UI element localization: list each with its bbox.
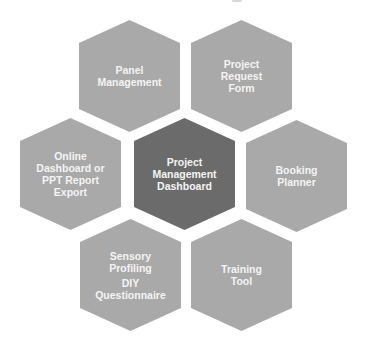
label-line: Planner [277,176,316,188]
label-line: Project [167,156,203,168]
hex-label: Training Tool [217,263,266,287]
hexagon-diagram: Panel Management Project Request Form On… [0,0,365,348]
hex-label: Sensory Profiling DIY Questionnaire [91,250,170,301]
label-line: Panel [115,64,143,76]
hex-label: Project Management Dashboard [148,156,220,192]
hex-online-dashboard-ppt-export[interactable]: Online Dashboard or PPT Report Export [20,118,121,230]
label-line: Online [54,150,87,162]
label-line: Request [221,70,262,82]
label-line: Form [228,82,254,94]
label-line: Management [97,76,161,88]
label-line: PPT Report [42,174,99,186]
hex-booking-planner[interactable]: Booking Planner [246,120,347,232]
label-line: Profiling [109,262,152,274]
hex-label: Online Dashboard or PPT Report Export [32,150,108,198]
label-line: Questionnaire [95,289,166,301]
label-line: Tool [231,275,252,287]
hex-project-management-dashboard[interactable]: Project Management Dashboard [134,118,235,230]
label-line: Export [54,186,87,198]
hex-panel-management[interactable]: Panel Management [79,20,180,132]
label-line: Dashboard or [36,162,104,174]
cropped-title-fragment [232,0,242,2]
label-line: DIY [122,277,140,289]
label-line: Sensory [110,250,151,262]
hex-label: Project Request Form [217,58,266,94]
hex-label: Booking Planner [272,164,322,188]
label-line: Project [224,58,260,70]
hex-project-request-form[interactable]: Project Request Form [191,20,292,132]
hex-label: Panel Management [93,64,165,88]
label-line: Management [152,168,216,180]
label-line: Dashboard [157,180,212,192]
hex-sensory-profiling-diy[interactable]: Sensory Profiling DIY Questionnaire [80,219,181,331]
hex-training-tool[interactable]: Training Tool [191,219,292,331]
label-line: Training [221,263,262,275]
label-line: Booking [276,164,318,176]
